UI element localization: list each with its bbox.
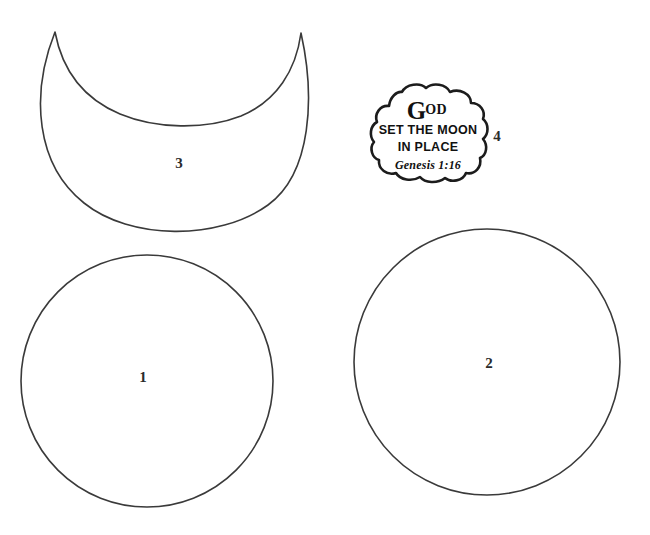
piece-number-1: 1 <box>139 369 147 386</box>
crescent-moon-shape <box>41 32 309 231</box>
caption-line-three: IN PLACE <box>398 141 459 154</box>
pattern-shapes-layer <box>0 0 650 535</box>
pattern-template-sheet: GOD SET THE MOON IN PLACE Genesis 1:16 1… <box>0 0 650 535</box>
caption-line-two: SET THE MOON <box>379 124 478 137</box>
caption-scripture-reference: Genesis 1:16 <box>395 159 461 171</box>
piece-number-2: 2 <box>485 355 493 372</box>
caption-god-rest: OD <box>425 102 447 117</box>
piece-number-4: 4 <box>493 128 501 145</box>
circle-piece-one-shape <box>21 255 273 507</box>
caption-word-god: GOD <box>407 101 447 121</box>
caption-dropcap-g: G <box>407 97 425 124</box>
piece-number-3: 3 <box>175 155 183 172</box>
